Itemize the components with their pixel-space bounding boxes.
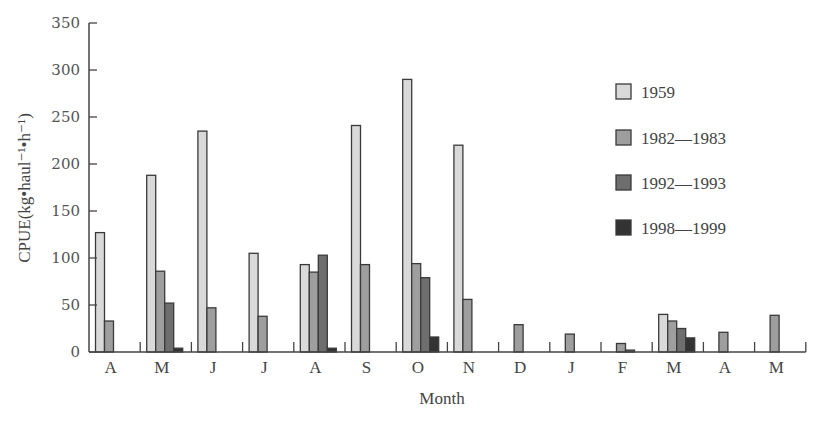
legend-label: 1998—1999 [641, 219, 726, 238]
bars-layer [96, 79, 780, 352]
bar-group [617, 344, 635, 353]
bar [309, 272, 318, 352]
legend-item: 1992—1993 [616, 174, 726, 193]
y-axis-title: CPUE(kg•haul⁻¹•h⁻¹) [15, 113, 34, 263]
bar [454, 145, 463, 352]
legend-swatch [616, 175, 631, 190]
y-tick-label: 200 [51, 155, 80, 173]
x-tick-label: N [463, 358, 475, 377]
bar-group [249, 253, 267, 352]
legend-swatch [616, 84, 631, 99]
bar [565, 334, 574, 352]
bar [318, 255, 327, 352]
x-tick-label: M [666, 358, 681, 377]
x-tick-label: S [362, 358, 371, 377]
bar-group [352, 126, 370, 353]
x-tick-label: M [769, 358, 784, 377]
bar [514, 325, 523, 352]
bar [258, 316, 267, 352]
x-tick-label: A [719, 358, 732, 377]
legend-label: 1959 [641, 83, 675, 102]
bar-group [514, 325, 523, 352]
x-tick-label: J [210, 358, 217, 377]
bar-group [403, 79, 439, 352]
bar [403, 79, 412, 352]
legend-item: 1959 [616, 83, 675, 102]
bar [686, 338, 695, 352]
bar-group [147, 175, 183, 352]
bar [770, 315, 779, 352]
bar [207, 308, 216, 352]
bar-group [198, 131, 216, 352]
y-tick-label: 100 [51, 249, 80, 267]
bar [430, 337, 439, 352]
bar-group [565, 334, 574, 352]
cpue-bar-chart: 050100150200250300350AMJJASONDJFMAM 1959… [0, 0, 817, 422]
bar [463, 299, 472, 352]
legend-swatch [616, 220, 631, 235]
bar-group [719, 332, 728, 352]
bar [361, 265, 370, 352]
legend: 19591982—19831992—19931998—1999 [616, 83, 726, 238]
bar-group [96, 233, 114, 352]
x-axis-title: Month [419, 389, 465, 408]
bar [249, 253, 258, 352]
legend-item: 1982—1983 [616, 129, 726, 148]
bar [105, 321, 114, 352]
bar [156, 271, 165, 352]
x-tick-label: O [412, 358, 424, 377]
bar [96, 233, 105, 352]
bar-group [659, 314, 695, 352]
y-tick-label: 350 [51, 14, 80, 32]
x-tick-label: M [154, 358, 169, 377]
bar [659, 314, 668, 352]
bar [352, 126, 361, 353]
legend-label: 1992—1993 [641, 174, 726, 193]
bar [300, 265, 309, 352]
y-tick-label: 300 [51, 61, 80, 79]
bar [147, 175, 156, 352]
x-tick-label: F [618, 358, 627, 377]
y-tick-label: 150 [51, 202, 80, 220]
bar-group [300, 255, 336, 352]
bar [617, 344, 626, 353]
bar-group [454, 145, 472, 352]
y-tick-label: 250 [51, 108, 80, 126]
bar [198, 131, 207, 352]
bar [677, 329, 686, 353]
x-tick-label: J [568, 358, 575, 377]
bar [421, 278, 430, 352]
y-tick-label: 0 [70, 343, 80, 361]
legend-label: 1982—1983 [641, 129, 726, 148]
x-tick-label: J [261, 358, 268, 377]
bar [412, 264, 421, 352]
x-tick-label: A [104, 358, 117, 377]
x-tick-label: A [309, 358, 322, 377]
y-tick-label: 50 [61, 296, 80, 314]
bar-group [770, 315, 779, 352]
bar [668, 321, 677, 352]
legend-swatch [616, 130, 631, 145]
legend-item: 1998—1999 [616, 219, 726, 238]
x-tick-label: D [514, 358, 526, 377]
bar [165, 303, 174, 352]
bar [719, 332, 728, 352]
